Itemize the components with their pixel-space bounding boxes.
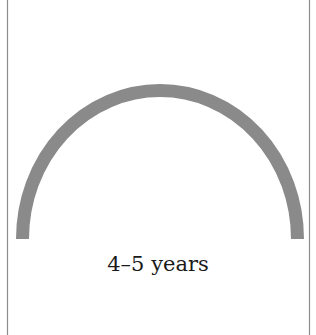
- arc-diagram: [0, 0, 316, 335]
- arc-caption: 4–5 years: [0, 254, 316, 275]
- figure-panel: 4–5 years: [0, 0, 316, 335]
- semicircle-arc: [23, 90, 298, 239]
